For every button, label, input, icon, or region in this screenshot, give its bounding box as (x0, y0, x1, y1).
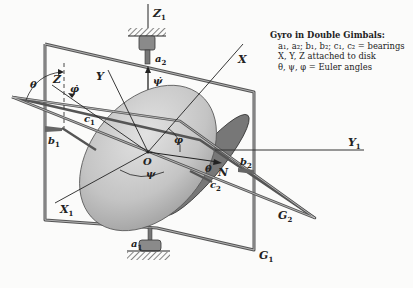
label-psi-dot: ψ̇ (153, 75, 163, 86)
origin-point (146, 150, 149, 153)
legend-bearings: a₁, a₂; b₁, b₂; c₁, c₂ = bearings (270, 41, 405, 52)
label-Y1: Y1 (348, 136, 361, 151)
label-psi: ψ (146, 168, 156, 179)
label-Z1: Z1 (152, 7, 166, 22)
label-G2: G2 (278, 209, 292, 224)
label-a2: a2 (155, 53, 166, 67)
bearing-c1-strut (62, 128, 96, 150)
label-theta: θ (30, 79, 37, 90)
psi-dot-arrow (145, 66, 151, 92)
label-O: O (143, 156, 152, 167)
label-X: X (237, 53, 247, 66)
label-b1: b1 (48, 135, 60, 149)
legend-euler-angles: θ, ψ, φ = Euler angles (270, 62, 405, 73)
label-X1: X1 (59, 203, 74, 218)
legend-axes: X, Y, Z attached to disk (270, 51, 405, 62)
label-phi-dot: φ̇ (70, 83, 79, 94)
label-Y: Y (96, 70, 105, 83)
label-Z: Z (52, 73, 62, 86)
label-phi: φ (174, 134, 183, 145)
legend-title: Gyro in Double Gimbals: (270, 30, 405, 41)
gyro-double-gimbal-diagram: Z1 a2 ψ̇ X Y Z θ φ̇ c1 b1 O φ ψ θ̇ N b2 … (0, 0, 413, 288)
label-N: N (217, 166, 229, 179)
label-theta-dot: θ̇ (205, 163, 212, 174)
label-G1: G1 (259, 249, 273, 264)
bearing-b1 (45, 126, 62, 132)
legend: Gyro in Double Gimbals: a₁, a₂; b₁, b₂; … (270, 30, 405, 72)
